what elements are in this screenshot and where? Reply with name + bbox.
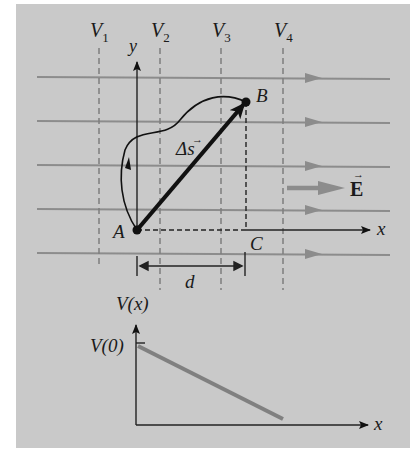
- point-b: [242, 98, 251, 107]
- v-axis-label: V(x): [116, 293, 149, 315]
- svg-text:V1: V1: [90, 19, 109, 45]
- svg-text:V4: V4: [274, 19, 293, 45]
- x-axis-label: x: [376, 218, 386, 239]
- e-field-label: E: [350, 178, 363, 200]
- equipotential-labels: V1 V2 V3 V4: [90, 19, 293, 45]
- graph-x-label: x: [373, 413, 383, 434]
- point-a: [133, 226, 142, 235]
- point-b-label: B: [256, 85, 268, 106]
- v0-tick-label: V(0): [90, 335, 124, 357]
- e-field-arrowhead-icon: [318, 181, 345, 195]
- field-diagram: V1 V2 V3 V4 y x Δs → A B C E → d V(x) V: [0, 0, 417, 458]
- potential-graph: [136, 325, 368, 425]
- point-c-label: C: [250, 233, 263, 254]
- point-a-label: A: [111, 221, 125, 242]
- distance-label: d: [185, 271, 195, 292]
- svg-text:V2: V2: [151, 19, 170, 45]
- field-lines: [37, 73, 390, 259]
- vector-arrow-icon: →: [192, 133, 203, 145]
- path-arrow-icon: [125, 157, 131, 170]
- potential-line: [138, 346, 283, 419]
- y-axis-label: y: [127, 36, 137, 56]
- svg-text:V3: V3: [212, 19, 231, 45]
- e-vector-arrow-icon: →: [353, 168, 364, 180]
